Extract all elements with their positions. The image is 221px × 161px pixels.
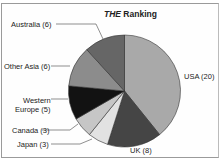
label-other-asia: Other Asia (6)	[4, 62, 50, 71]
leader-line	[56, 24, 103, 39]
title-rest: Ranking	[121, 9, 157, 19]
label-usa: USA (20)	[184, 72, 214, 81]
label-uk: UK (8)	[130, 146, 152, 155]
label-canada: Canada (3)	[12, 126, 50, 135]
label-japan: Japan (3)	[17, 140, 49, 149]
label-western-europe-2: Europe (5)	[15, 105, 50, 114]
chart-title: THE Ranking	[104, 9, 157, 19]
label-western-europe-1: Western	[23, 96, 50, 105]
title-italic: THE	[104, 9, 121, 19]
leader-line	[51, 139, 92, 144]
label-australia: Australia (6)	[11, 20, 51, 29]
